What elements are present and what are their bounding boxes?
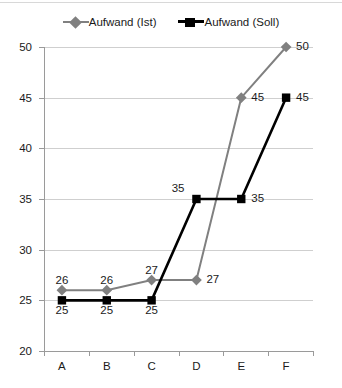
point-value-label: 27 bbox=[142, 264, 162, 276]
point-value-label: 25 bbox=[52, 304, 72, 316]
data-point-marker[interactable] bbox=[147, 296, 155, 304]
point-value-label: 45 bbox=[296, 91, 309, 103]
point-value-label: 35 bbox=[170, 182, 184, 194]
data-point-marker[interactable] bbox=[101, 285, 112, 296]
data-point-marker[interactable] bbox=[57, 285, 68, 296]
data-point-marker[interactable] bbox=[103, 296, 111, 304]
point-value-label: 35 bbox=[251, 192, 264, 204]
data-point-marker[interactable] bbox=[237, 195, 245, 203]
point-value-label: 27 bbox=[206, 273, 219, 285]
series-line-ist bbox=[62, 47, 286, 290]
data-point-marker[interactable] bbox=[282, 93, 290, 101]
point-value-label: 26 bbox=[52, 274, 72, 286]
point-value-label: 50 bbox=[296, 40, 309, 52]
point-value-label: 26 bbox=[97, 274, 117, 286]
data-point-marker[interactable] bbox=[58, 296, 66, 304]
line-chart: Aufwand (Ist) Aufwand (Soll) 20253035404… bbox=[0, 0, 342, 388]
data-point-marker[interactable] bbox=[192, 195, 200, 203]
point-value-label: 25 bbox=[142, 304, 162, 316]
data-point-marker[interactable] bbox=[191, 275, 202, 286]
series-plot-layer bbox=[0, 0, 342, 388]
point-value-label: 45 bbox=[251, 91, 264, 103]
data-point-marker[interactable] bbox=[146, 275, 157, 286]
point-value-label: 25 bbox=[97, 304, 117, 316]
